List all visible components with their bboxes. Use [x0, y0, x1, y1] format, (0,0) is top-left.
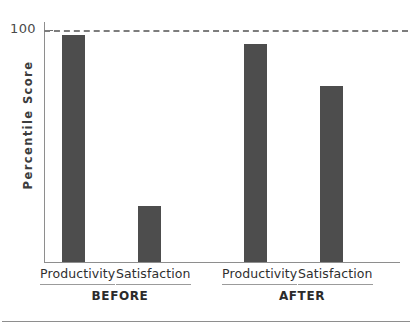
category-label-after-satisfaction: Satisfaction: [298, 266, 373, 285]
y-axis-tick-label-100: 100: [10, 21, 36, 37]
category-label-before-productivity: Productivity: [40, 266, 115, 285]
bar-before-productivity: [62, 35, 85, 262]
group-label-before: BEFORE: [60, 289, 180, 303]
y-axis-title: Percentile Score: [21, 45, 35, 205]
bottom-divider: [2, 321, 410, 322]
y-axis-line: [44, 22, 45, 263]
bar-after-satisfaction: [320, 86, 343, 262]
category-label-after-productivity: Productivity: [222, 266, 297, 285]
reference-line-100: [44, 30, 408, 32]
group-label-after: AFTER: [242, 289, 362, 303]
bar-before-satisfaction: [138, 206, 161, 262]
bar-after-productivity: [244, 44, 267, 262]
bar-chart: 100 Percentile Score Productivity Satisf…: [0, 0, 412, 329]
x-axis-line: [44, 262, 400, 263]
category-label-before-satisfaction: Satisfaction: [116, 266, 191, 285]
